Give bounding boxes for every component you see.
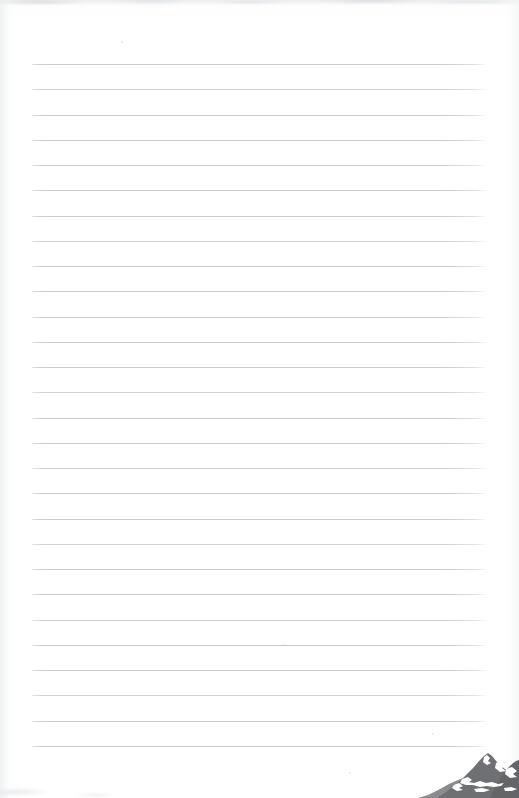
notepad-page <box>0 0 519 798</box>
ruled-line <box>32 594 488 595</box>
ruled-line <box>32 266 488 267</box>
ruled-line <box>32 493 488 494</box>
ruled-line <box>32 544 488 545</box>
ruled-line <box>32 695 488 696</box>
ruled-line <box>32 620 488 621</box>
ruled-line <box>32 392 488 393</box>
ruled-line <box>32 721 488 722</box>
ruled-line <box>32 645 488 646</box>
ruled-line <box>32 569 488 570</box>
ruled-line <box>32 342 488 343</box>
ruled-line <box>32 670 488 671</box>
ruled-line <box>32 317 488 318</box>
ruled-line <box>32 443 488 444</box>
ruled-line <box>32 165 488 166</box>
ruled-line <box>32 519 488 520</box>
ruled-line <box>32 291 488 292</box>
ruled-line <box>32 115 488 116</box>
ruled-line <box>32 468 488 469</box>
ruled-line <box>32 190 488 191</box>
ruled-line <box>32 367 488 368</box>
ruled-line <box>32 746 488 747</box>
ruled-line <box>32 216 488 217</box>
ruled-line <box>32 140 488 141</box>
ruled-line <box>32 89 488 90</box>
ruled-line <box>32 418 488 419</box>
ruled-line <box>32 241 488 242</box>
ruled-lines <box>0 0 519 798</box>
ruled-line <box>32 64 488 65</box>
